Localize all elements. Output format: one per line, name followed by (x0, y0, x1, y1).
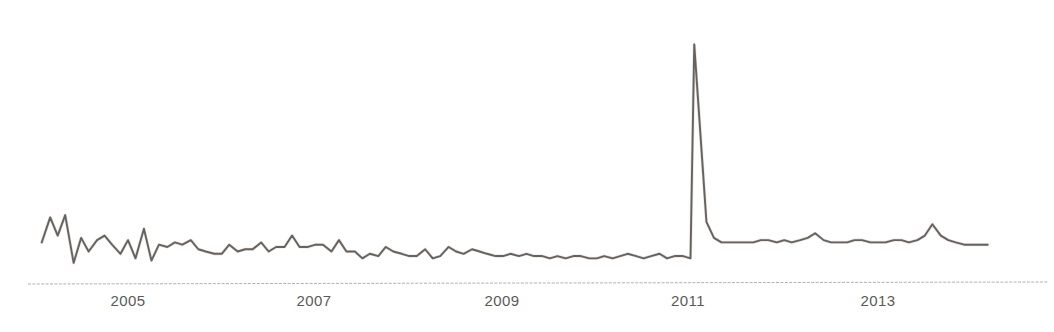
series-line-1-halo (42, 44, 988, 263)
x-axis-baseline (28, 282, 1048, 284)
chart-container: 2005 2007 2009 2011 2013 (0, 0, 1054, 332)
line-chart-plot (0, 0, 1054, 332)
series-line-1 (42, 44, 988, 263)
plot-area (28, 44, 1048, 284)
